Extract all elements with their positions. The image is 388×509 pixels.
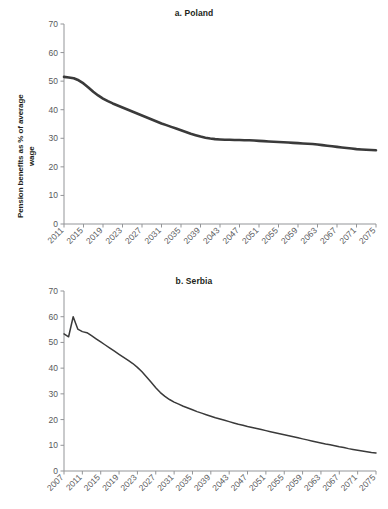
x-tick-label: 2071 (337, 225, 358, 246)
x-tick-label: 2031 (155, 472, 176, 493)
x-tick-label: 2035 (173, 472, 194, 493)
x-tick-label: 2023 (118, 472, 139, 493)
x-tick-label: 2043 (210, 472, 231, 493)
y-tick-label: 30 (49, 389, 59, 399)
x-tick-label: 2059 (279, 225, 300, 246)
x-tick-label: 2019 (100, 472, 121, 493)
x-tick-label: 2043 (201, 225, 222, 246)
x-tick-label: 2011 (64, 472, 84, 492)
x-tick-label: 2075 (357, 472, 378, 493)
y-tick-label: 10 (49, 190, 59, 200)
x-tick-label: 2063 (302, 472, 323, 493)
x-tick-label: 2051 (247, 472, 268, 493)
y-tick-label: 10 (49, 440, 59, 450)
x-tick-label: 2015 (82, 472, 103, 493)
x-tick-label: 2059 (284, 472, 305, 493)
x-tick-label: 2027 (123, 225, 144, 246)
x-tick-label: 2011 (45, 225, 65, 245)
x-tick-label: 2027 (137, 472, 158, 493)
y-tick-label: 70 (49, 286, 59, 296)
y-tick-label: 60 (49, 48, 59, 58)
y-tick-label: 20 (49, 415, 59, 425)
x-tick-label: 2039 (192, 472, 213, 493)
x-tick-label: 2067 (320, 472, 341, 493)
y-tick-label: 40 (49, 363, 59, 373)
chart-panel-serbia: b. Serbia Pension benefits as % of avera… (0, 262, 388, 509)
y-tick-label: 50 (49, 337, 59, 347)
y-tick-label: 30 (49, 133, 59, 143)
x-tick-label: 2071 (339, 472, 360, 493)
x-tick-label: 2039 (181, 225, 202, 246)
x-tick-label: 2063 (298, 225, 319, 246)
x-tick-label: 2047 (228, 472, 249, 493)
x-tick-label: 2067 (318, 225, 339, 246)
y-tick-label: 50 (49, 76, 59, 86)
x-tick-label: 2019 (84, 225, 105, 246)
plot-area-poland: 0102030405060702011201520192023202720312… (0, 0, 388, 262)
series-line-poland (64, 77, 376, 150)
y-tick-label: 70 (49, 19, 59, 29)
series-line-serbia (64, 317, 376, 453)
y-tick-label: 20 (49, 162, 59, 172)
x-tick-label: 2075 (357, 225, 378, 246)
x-tick-label: 2023 (103, 225, 124, 246)
x-tick-label: 2055 (265, 472, 286, 493)
x-tick-label: 2035 (162, 225, 183, 246)
x-tick-label: 2055 (259, 225, 280, 246)
plot-area-serbia: 0102030405060702007201120152019202320272… (0, 262, 388, 509)
x-tick-label: 2007 (45, 472, 66, 493)
y-tick-label: 60 (49, 312, 59, 322)
y-tick-label: 40 (49, 105, 59, 115)
x-tick-label: 2031 (142, 225, 163, 246)
x-tick-label: 2015 (64, 225, 85, 246)
x-tick-label: 2047 (220, 225, 241, 246)
chart-panel-poland: a. Poland Pension benefits as % of avera… (0, 0, 388, 262)
x-tick-label: 2051 (240, 225, 261, 246)
